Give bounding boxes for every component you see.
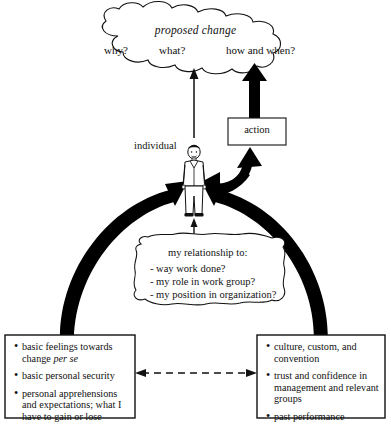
- bullet-icon: •: [266, 370, 274, 382]
- action-label: action: [228, 124, 286, 135]
- bullet-icon: •: [266, 411, 274, 423]
- factor-item-label: personal apprehensions and expectations;…: [22, 388, 132, 423]
- cloud-question-what: what?: [159, 44, 185, 56]
- figure-caption: [28, 424, 278, 432]
- bullet-icon: •: [14, 341, 22, 353]
- factor-item: •basic personal security: [14, 370, 132, 382]
- left-factors-list: •basic feelings towards change per se•ba…: [14, 341, 132, 429]
- factor-item-emphasis: per se: [53, 353, 78, 364]
- factor-item-label: culture, custom, and convention: [274, 341, 382, 364]
- cloud-question-why: why?: [104, 44, 128, 56]
- factor-item-label: past performance: [274, 411, 382, 423]
- factor-item-label: trust and confidence in management and r…: [274, 370, 382, 405]
- cloud-title: proposed change: [0, 24, 391, 36]
- cloud-shape: [102, 1, 280, 73]
- bullet-icon: •: [14, 370, 22, 382]
- factor-item: •basic feelings towards change per se: [14, 341, 132, 364]
- boxes-link-dashed-arrow: [135, 369, 257, 377]
- factor-item: •culture, custom, and convention: [266, 341, 382, 364]
- callout-item: - my position in organization?: [150, 289, 276, 300]
- factor-item-label: basic feelings towards change per se: [22, 341, 132, 364]
- factor-item: •past performance: [266, 411, 382, 423]
- cloud-question-how-and-when: how and when?: [226, 44, 295, 56]
- factor-item: •personal apprehensions and expectations…: [14, 388, 132, 423]
- callout-heading: my relationship to:: [168, 247, 247, 258]
- callout-item: - way work done?: [150, 263, 226, 274]
- right-factors-list: •culture, custom, and convention•trust a…: [266, 341, 382, 429]
- individual-label: individual: [134, 140, 177, 151]
- factor-item: •trust and confidence in management and …: [266, 370, 382, 405]
- callout-item: - my role in work group?: [150, 276, 255, 287]
- bullet-icon: •: [14, 388, 22, 400]
- individual-figure: [182, 145, 206, 216]
- individual-to-cloud-arrow: [190, 68, 199, 138]
- bullet-icon: •: [266, 341, 274, 353]
- factor-item-label: basic personal security: [22, 370, 132, 382]
